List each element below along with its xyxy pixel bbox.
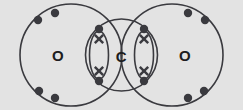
bond-left-upper-pair-dot xyxy=(95,25,103,33)
bond-right-upper-pair-cross xyxy=(140,35,148,43)
lone-pair-right-bottom-dot-2 xyxy=(200,87,208,95)
lone-pair-right-top-dot-1 xyxy=(184,9,192,17)
bond-right-upper-pair-dot xyxy=(140,25,148,33)
bond-right-lower-pair-dot xyxy=(140,77,148,85)
carbon-center-label: C xyxy=(116,48,127,65)
bond-left-lower-pair-cross xyxy=(95,67,103,75)
bond-left-lower-pair-dot xyxy=(95,77,103,85)
oxygen-left-label: O xyxy=(52,47,64,64)
bond-right-lower-pair-cross xyxy=(140,67,148,75)
lone-pair-right-bottom-dot-1 xyxy=(184,94,192,102)
lone-pair-left-bottom-dot-2 xyxy=(51,94,59,102)
co2-dot-and-cross-diagram: O C O xyxy=(0,0,243,110)
lone-pair-left-top-dot-1 xyxy=(34,16,42,24)
atom-labels: O C O xyxy=(52,47,191,65)
lone-pair-left-bottom-dot-1 xyxy=(35,87,43,95)
lone-pair-left-top-dot-2 xyxy=(51,9,59,17)
oxygen-right-label: O xyxy=(179,47,191,64)
bond-left-upper-pair-cross xyxy=(95,35,103,43)
lone-pair-right-top-dot-2 xyxy=(201,16,209,24)
diagram-canvas: O C O xyxy=(0,0,243,110)
